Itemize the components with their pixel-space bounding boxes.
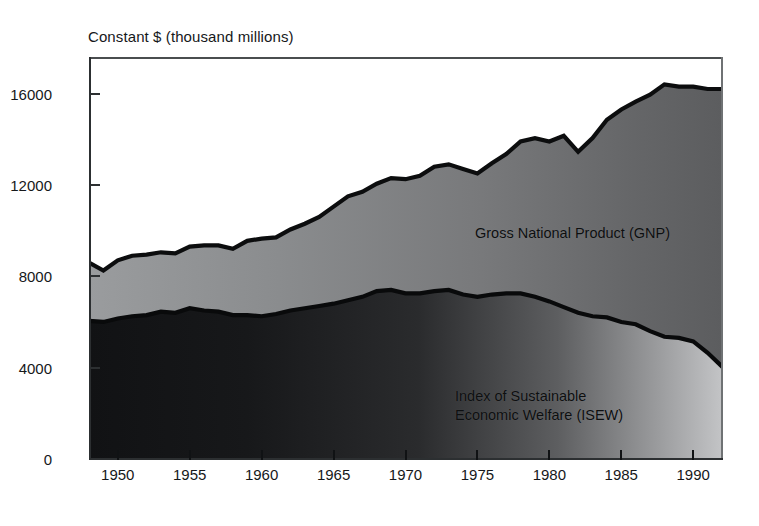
chart-axis-title: Constant $ (thousand millions) <box>88 28 294 45</box>
x-tick-label: 1985 <box>605 466 638 483</box>
plot-frame-right <box>721 57 723 460</box>
series-label-isew: Index of Sustainable Economic Welfare (I… <box>455 387 623 425</box>
x-tick-mark <box>189 450 191 460</box>
y-tick-label: 0 <box>44 451 52 468</box>
y-tick-label: 8000 <box>19 268 52 285</box>
y-tick-label: 12000 <box>10 176 52 193</box>
x-tick-mark <box>261 450 263 460</box>
x-tick-label: 1980 <box>533 466 566 483</box>
x-tick-label: 1960 <box>245 466 278 483</box>
x-tick-mark <box>620 450 622 460</box>
x-tick-label: 1955 <box>173 466 206 483</box>
plot-area <box>89 57 722 459</box>
x-tick-mark <box>405 450 407 460</box>
y-tick-mark <box>89 93 100 95</box>
series-layer <box>89 84 722 459</box>
x-tick-label: 1950 <box>101 466 134 483</box>
x-tick-mark <box>692 450 694 460</box>
plot-frame-top <box>89 57 723 59</box>
x-tick-mark <box>548 450 550 460</box>
x-tick-label: 1975 <box>461 466 494 483</box>
x-tick-mark <box>476 450 478 460</box>
plot-frame-left <box>89 57 91 460</box>
y-tick-label: 16000 <box>10 85 52 102</box>
y-tick-mark <box>89 184 100 186</box>
chart-canvas <box>89 57 722 459</box>
x-tick-label: 1970 <box>389 466 422 483</box>
x-tick-label: 1990 <box>677 466 710 483</box>
x-tick-mark <box>117 450 119 460</box>
chart-figure: Constant $ (thousand millions) <box>0 0 759 526</box>
y-tick-mark <box>89 275 100 277</box>
x-tick-mark <box>333 450 335 460</box>
y-tick-mark <box>89 367 100 369</box>
y-tick-label: 4000 <box>19 359 52 376</box>
x-tick-label: 1965 <box>317 466 350 483</box>
series-label-gnp: Gross National Product (GNP) <box>475 224 670 243</box>
